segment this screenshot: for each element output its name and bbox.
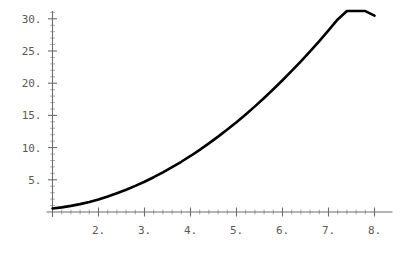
y-tick-label: 30. [22,13,42,26]
x-tick-label: 6. [276,224,289,237]
x-tick-label: 5. [230,224,243,237]
plot-background [0,0,403,253]
y-tick-label: 10. [22,142,42,155]
x-tick-label: 8. [368,224,381,237]
x-tick-label: 3. [138,224,151,237]
y-tick-label: 20. [22,77,42,90]
y-tick-label: 5. [28,174,41,187]
y-tick-label: 25. [22,45,42,58]
plot-figure: 2.3.4.5.6.7.8. 5.10.15.20.25.30. [0,0,403,253]
y-tick-label: 15. [22,109,42,122]
x-tick-label: 4. [184,224,197,237]
x-tick-label: 7. [322,224,335,237]
plot-canvas: 2.3.4.5.6.7.8. 5.10.15.20.25.30. [0,0,403,253]
x-tick-label: 2. [92,224,105,237]
